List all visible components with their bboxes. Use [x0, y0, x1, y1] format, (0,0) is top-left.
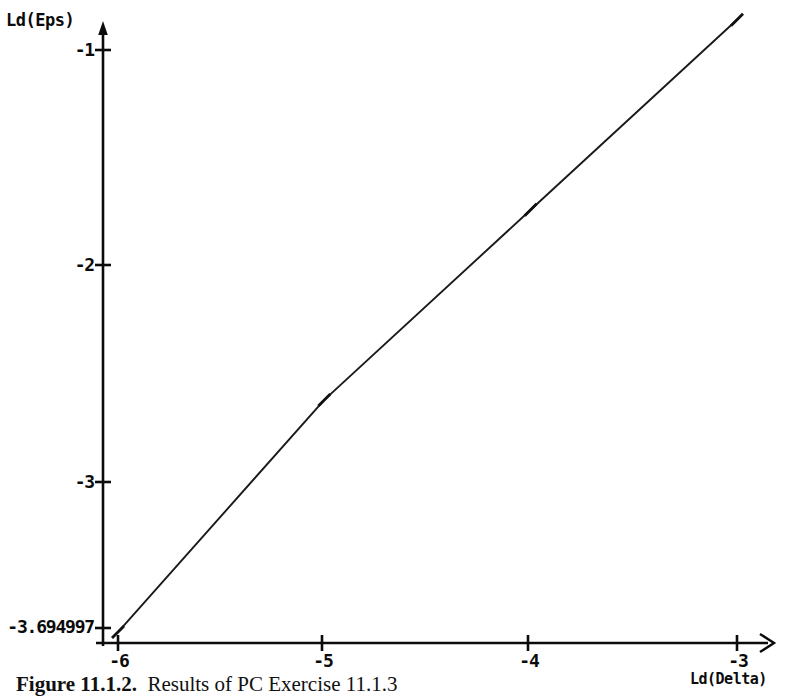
- x-tick-label: -6: [104, 650, 134, 671]
- y-tick-label: -3: [22, 471, 94, 492]
- y-axis-title: Ld(Eps): [6, 10, 74, 30]
- figure-caption-text: Results of PC Exercise 11.1.3: [147, 672, 397, 696]
- figure-caption: Figure 11.1.2. Results of PC Exercise 11…: [16, 672, 616, 697]
- x-tick-label: -5: [308, 650, 338, 671]
- y-axis-arrowhead: [98, 21, 108, 35]
- data-series-line: [118, 20, 737, 632]
- data-point-marker: [731, 14, 743, 26]
- x-tick-label: -4: [514, 650, 544, 671]
- y-tick-label: -3.694997: [0, 616, 94, 637]
- y-tick-label: -1: [22, 39, 94, 60]
- y-tick-label: -2: [22, 254, 94, 275]
- x-axis-title: Ld(Delta): [690, 670, 767, 688]
- figure-caption-number: Figure 11.1.2.: [16, 672, 137, 696]
- data-point-marker: [318, 394, 330, 406]
- data-point-marker: [525, 204, 537, 216]
- x-tick-label: -3: [723, 650, 753, 671]
